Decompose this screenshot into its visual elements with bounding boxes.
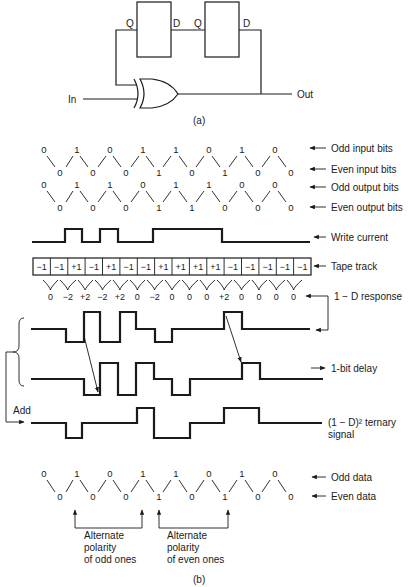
label-text: 0 <box>107 468 112 479</box>
label-text: 1 <box>222 491 227 502</box>
label-even-output: Even output bits <box>331 202 403 213</box>
label-text: +1 <box>158 262 168 272</box>
label-text: −1 <box>89 262 99 272</box>
label-text: 0 <box>57 167 62 178</box>
label-text: 0 <box>255 202 260 213</box>
label-text: −1 <box>123 262 133 272</box>
label-ternary-2: signal <box>328 429 354 440</box>
label-text: 0 <box>90 202 95 213</box>
label-text: 0 <box>135 292 140 302</box>
label-text: 0 <box>288 167 293 178</box>
label-text: 0 <box>41 468 46 479</box>
label-text: −1 <box>37 262 47 272</box>
input-bits-zigzag: 0 1 0 1 1 0 1 0 0 0 0 1 0 1 0 0 <box>41 144 293 178</box>
tape-track: −1 −1 +1 −1 +1 −1 −1 +1 +1 +1 +1 −1 −1 −… <box>33 258 311 275</box>
label-text: 0 <box>187 292 192 302</box>
label-text: 1 <box>173 144 178 155</box>
label-tape-track: Tape track <box>331 261 378 272</box>
label-text: 0 <box>222 202 227 213</box>
label-text: 1 <box>156 167 161 178</box>
label-text: −1 <box>141 262 151 272</box>
add-label: Add <box>13 405 31 416</box>
polarity-annotations: Alternate polarity of odd ones Alternate… <box>75 510 228 565</box>
label-text: 0 <box>274 292 279 302</box>
xor-gate-icon <box>134 79 178 108</box>
label-text: 0 <box>288 491 293 502</box>
label-text: −1 <box>280 262 290 272</box>
write-current-wave <box>32 229 310 242</box>
label-text: 0 <box>291 292 296 302</box>
label-text: 0 <box>90 167 95 178</box>
label-even-data: Even data <box>331 491 376 502</box>
label-text: 0 <box>272 144 277 155</box>
label-text: 1 <box>206 179 211 190</box>
label-response: 1 − D response <box>334 291 403 302</box>
label-text: 0 <box>206 468 211 479</box>
figure-a-circuit: Q D Q D In Out (a) <box>68 2 313 126</box>
label-text: +1 <box>193 262 203 272</box>
ternary-wave <box>31 408 322 438</box>
input-label: In <box>68 94 76 105</box>
label-text: −1 <box>245 262 255 272</box>
label-text: 0 <box>123 491 128 502</box>
label-text: +1 <box>106 262 116 272</box>
output-bits-zigzag: 0 1 1 0 1 1 0 0 0 0 0 1 1 0 0 0 <box>41 179 293 213</box>
label-text: −2 <box>149 292 159 302</box>
label-text: 0 <box>255 491 260 502</box>
label-text: 0 <box>239 292 244 302</box>
caption-b: (b) <box>193 574 205 585</box>
label-text: 0 <box>169 292 174 302</box>
row-labels: Odd input bits Even input bits Odd outpu… <box>306 143 403 502</box>
label-text: −1 <box>228 262 238 272</box>
label-text: +1 <box>71 262 81 272</box>
label-text: of odd ones <box>84 554 136 565</box>
label-text: polarity <box>167 542 199 553</box>
label-odd-input: Odd input bits <box>331 143 393 154</box>
label-text: 0 <box>57 202 62 213</box>
label-text: 1 <box>156 202 161 213</box>
label-text: 1 <box>222 167 227 178</box>
label-text: 0 <box>90 491 95 502</box>
label-text: 0 <box>189 491 194 502</box>
label-even-input: Even input bits <box>331 164 397 175</box>
output-label: Out <box>297 89 313 100</box>
label-text: 0 <box>255 167 260 178</box>
label-text: of even ones <box>167 554 224 565</box>
label-text: 1 <box>107 179 112 190</box>
label-text: +2 <box>219 292 229 302</box>
label-text: 0 <box>189 167 194 178</box>
label-text: polarity <box>84 542 116 553</box>
label-text: 1 <box>74 144 79 155</box>
label-text: +1 <box>210 262 220 272</box>
label-text: 0 <box>204 292 209 302</box>
label-text: 0 <box>288 202 293 213</box>
ff1-q-pin: Q <box>126 18 134 29</box>
ff2-d-pin: D <box>243 18 250 29</box>
label-text: 0 <box>48 292 53 302</box>
label-odd-output: Odd output bits <box>331 182 399 193</box>
label-text: 0 <box>272 468 277 479</box>
label-text: 1 <box>74 179 79 190</box>
label-text: 1 <box>74 468 79 479</box>
label-text: −1 <box>262 262 272 272</box>
label-text: 0 <box>140 179 145 190</box>
label-text: 1 <box>239 144 244 155</box>
label-text: 0 <box>206 144 211 155</box>
flipflop-2 <box>205 2 239 57</box>
label-text: 0 <box>256 292 261 302</box>
ff2-q-pin: Q <box>194 18 202 29</box>
label-text: +1 <box>176 262 186 272</box>
label-text: 1 <box>189 202 194 213</box>
response-brackets: 0 −2 +2 −2 +2 0 −2 0 0 0 +2 0 0 0 0 <box>43 280 302 302</box>
label-text: 0 <box>123 167 128 178</box>
delay-arrow-2 <box>226 316 241 362</box>
label-text: 0 <box>57 491 62 502</box>
delay-wave <box>31 363 323 395</box>
label-text: 1 <box>140 144 145 155</box>
label-write-current: Write current <box>331 232 388 243</box>
label-ternary-1: (1 − D)² ternary <box>328 417 396 428</box>
label-text: Alternate <box>84 530 124 541</box>
label-text: 0 <box>123 202 128 213</box>
label-text: 0 <box>41 179 46 190</box>
label-text: 0 <box>272 179 277 190</box>
